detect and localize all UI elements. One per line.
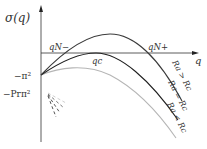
label-qn-minus: qN− [49,42,69,52]
tick-neg-pr-pi-squared: −Prπ² [3,89,31,99]
curve-ra-below-rc [41,68,176,138]
label-qc: qc [92,56,102,66]
x-axis-label: q [195,55,201,66]
dashed-decay-lines [48,93,66,117]
label-qn-plus: qN+ [148,42,168,52]
y-axis-arrow-icon [39,5,43,12]
tick-neg-pi-squared: −π² [14,71,31,81]
y-axis-label: σ(q) [5,11,31,25]
growth-rate-diagram: σ(q) q −π² −Prπ² qN− qN+ qc Ra > Rc Ra =… [0,0,207,149]
